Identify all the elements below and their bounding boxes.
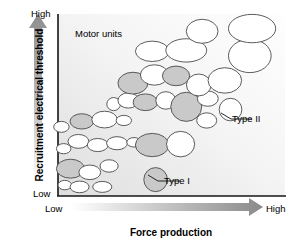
motor-unit-marker — [100, 160, 118, 172]
x-axis-title: Force production — [57, 228, 285, 238]
motor-unit-marker — [228, 14, 275, 42]
motor-unit-marker — [58, 180, 72, 189]
y-axis-high-tick-label: High — [31, 9, 51, 19]
motor-unit-marker — [135, 41, 169, 61]
motor-unit-marker — [167, 131, 195, 156]
motor-unit-recruitment-figure: Recruitment electrical threshold Force p… — [0, 0, 302, 246]
motor-unit-marker — [87, 138, 108, 151]
motor-unit-marker — [171, 92, 202, 121]
motor-unit-marker — [68, 134, 89, 148]
x-axis-low-tick-label: Low — [45, 204, 62, 214]
motor-unit-marker — [186, 19, 218, 43]
type-ii-callout-label: Type II — [232, 114, 261, 124]
motor-unit-marker — [93, 181, 112, 192]
motor-unit-marker — [116, 115, 131, 125]
motor-unit-marker — [208, 68, 242, 93]
motor-unit-marker — [54, 121, 69, 132]
x-axis-gradient-arrow — [72, 198, 263, 216]
motor-unit-marker — [162, 66, 189, 86]
motor-unit-marker — [107, 137, 128, 150]
motor-unit-marker — [70, 181, 89, 193]
motor-units-annotation: Motor units — [75, 29, 122, 39]
motor-unit-marker — [79, 165, 101, 180]
motor-unit-marker — [92, 111, 117, 128]
type-i-callout-label: Type I — [164, 176, 190, 186]
motor-unit-marker — [133, 94, 158, 111]
motor-unit-marker — [70, 114, 94, 129]
motor-unit-marker — [228, 39, 271, 72]
motor-unit-marker — [186, 74, 211, 96]
x-axis-high-tick-label: High — [266, 204, 286, 214]
y-axis-low-tick-label: Low — [33, 189, 50, 199]
motor-unit-marker — [56, 144, 71, 154]
motor-unit-marker — [197, 113, 217, 128]
motor-unit-marker — [135, 133, 169, 156]
y-axis-title: Recruitment electrical threshold — [35, 16, 45, 194]
